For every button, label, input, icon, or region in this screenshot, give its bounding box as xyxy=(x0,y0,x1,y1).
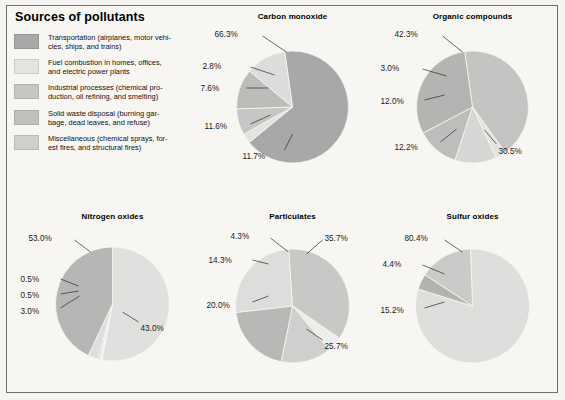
pie-percent-label: 14.3% xyxy=(209,256,232,265)
legend-label-miscellaneous: Miscellaneous (chemical sprays, for-est … xyxy=(48,134,196,152)
pie-percent-label: 43.0% xyxy=(141,324,164,333)
callout-leader-line xyxy=(271,238,289,252)
chart-carbon-monoxide: Carbon monoxide 66.3%2.8%7.6%11.6%11.7% xyxy=(210,12,375,197)
pie-percent-label: 30.5% xyxy=(499,147,522,156)
pie-percent-label: 0.5% xyxy=(21,291,40,300)
chart-particulates: Particulates 35.7%4.3%14.3%20.0%25.7% xyxy=(210,212,375,392)
pie-percent-label: 11.6% xyxy=(205,122,228,131)
pie-slice xyxy=(236,249,293,312)
pie-percent-label: 3.0% xyxy=(381,64,400,73)
legend-label-solid-waste: Solid waste disposal (burning gar-bage, … xyxy=(48,109,196,127)
legend-item-fuel-combustion: Fuel combustion in homes, offices,and el… xyxy=(14,58,204,76)
legend-item-industrial-processes: Industrial processes (chemical pro-ducti… xyxy=(14,83,204,101)
legend-swatch-solid-waste xyxy=(14,110,39,125)
legend-swatch-transportation xyxy=(14,34,39,49)
pie-percent-label: 3.0% xyxy=(21,307,40,316)
legend-swatch-industrial-processes xyxy=(14,84,39,99)
callout-leader-line xyxy=(443,36,463,52)
pie-percent-label: 12.0% xyxy=(381,97,404,106)
chart-nitrogen-oxides: Nitrogen oxides 53.0%0.5%0.5%3.0%43.0% xyxy=(30,212,195,392)
pie-percent-label: 2.8% xyxy=(203,62,222,71)
pie-percent-label: 7.6% xyxy=(201,84,220,93)
legend-item-transportation: Transportation (airplanes, motor vehi-cl… xyxy=(14,33,204,51)
pie-percent-label: 20.0% xyxy=(207,301,230,310)
legend-swatch-miscellaneous xyxy=(14,135,39,150)
legend-label-industrial-processes: Industrial processes (chemical pro-ducti… xyxy=(48,83,196,101)
legend-item-miscellaneous: Miscellaneous (chemical sprays, for-est … xyxy=(14,134,204,152)
callout-leader-line xyxy=(75,240,91,252)
legend-swatch-fuel-combustion xyxy=(14,59,39,74)
legend-title: Sources of pollutants xyxy=(15,10,204,24)
legend-panel: Sources of pollutants Transportation (ai… xyxy=(14,10,204,159)
pie-percent-label: 12.2% xyxy=(395,143,418,152)
pie-percent-label: 80.4% xyxy=(405,234,428,243)
figure-page: Sources of pollutants Transportation (ai… xyxy=(0,0,565,400)
pie-svg xyxy=(390,12,555,197)
callout-leader-line xyxy=(307,240,323,254)
pie-percent-label: 25.7% xyxy=(325,342,348,351)
legend-label-fuel-combustion: Fuel combustion in homes, offices,and el… xyxy=(48,58,196,76)
pie-percent-label: 15.2% xyxy=(381,306,404,315)
pie-percent-label: 0.5% xyxy=(21,275,40,284)
pie-svg xyxy=(30,212,195,392)
pie-percent-label: 53.0% xyxy=(29,234,52,243)
callout-leader-line xyxy=(263,36,287,52)
pie-percent-label: 66.3% xyxy=(215,30,238,39)
callout-leader-line xyxy=(445,240,463,252)
pie-percent-label: 42.3% xyxy=(395,30,418,39)
legend-label-transportation: Transportation (airplanes, motor vehi-cl… xyxy=(48,33,196,51)
legend-item-solid-waste: Solid waste disposal (burning gar-bage, … xyxy=(14,109,204,127)
chart-sulfur-oxides: Sulfur oxides 80.4%4.4%15.2% xyxy=(390,212,555,392)
pie-svg xyxy=(210,12,375,197)
pie-percent-label: 35.7% xyxy=(325,234,348,243)
pie-percent-label: 4.3% xyxy=(231,232,250,241)
pie-percent-label: 4.4% xyxy=(383,260,402,269)
chart-organic-compounds: Organic compounds 42.3%3.0%12.0%12.2%30.… xyxy=(390,12,555,197)
pie-percent-label: 11.7% xyxy=(243,152,266,161)
